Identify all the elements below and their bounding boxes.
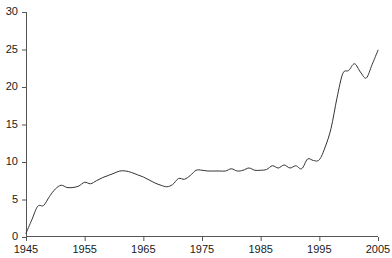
chart-plot-area [0, 0, 392, 258]
x-tick-label: 1985 [231, 244, 291, 255]
x-tick-label: 1955 [55, 244, 115, 255]
y-axis-tick-marks [22, 13, 26, 238]
x-tick-label: 1975 [172, 244, 232, 255]
y-tick-label: 15 [0, 119, 18, 130]
x-tick-label: 1995 [289, 244, 349, 255]
data-series-line [26, 50, 378, 233]
x-tick-label: 2005 [348, 244, 392, 255]
y-tick-label: 25 [0, 44, 18, 55]
y-tick-label: 0 [0, 231, 18, 242]
y-tick-label: 20 [0, 81, 18, 92]
line-chart: 051015202530 194519551965197519851995200… [0, 0, 392, 258]
y-tick-label: 10 [0, 156, 18, 167]
y-tick-label: 30 [0, 6, 18, 17]
x-tick-label: 1945 [0, 244, 56, 255]
x-axis-tick-marks [27, 237, 379, 241]
y-tick-label: 5 [0, 194, 18, 205]
x-tick-label: 1965 [113, 244, 173, 255]
